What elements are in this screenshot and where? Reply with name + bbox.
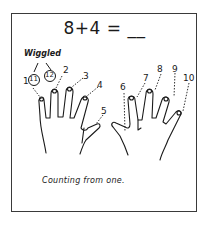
caption-text: Counting from one. [42,176,125,185]
circled-label-11: 11 [29,75,38,83]
right-hand-icon [112,90,181,161]
left-hand-icon [39,88,100,155]
finger-label-2: 2 [63,65,69,75]
finger-label-4: 4 [97,80,103,90]
finger-label-3: 3 [83,71,89,81]
finger-label-9: 9 [172,64,178,74]
finger-label-6: 6 [120,82,126,92]
circled-label-12: 12 [45,71,54,79]
fingernail-marks [40,87,182,115]
finger-label-5: 5 [101,106,107,116]
finger-label-8: 8 [157,64,163,74]
finger-label-10: 10 [183,73,194,83]
finger-label-7: 7 [143,73,149,83]
finger-label-1: 1 [23,76,29,86]
